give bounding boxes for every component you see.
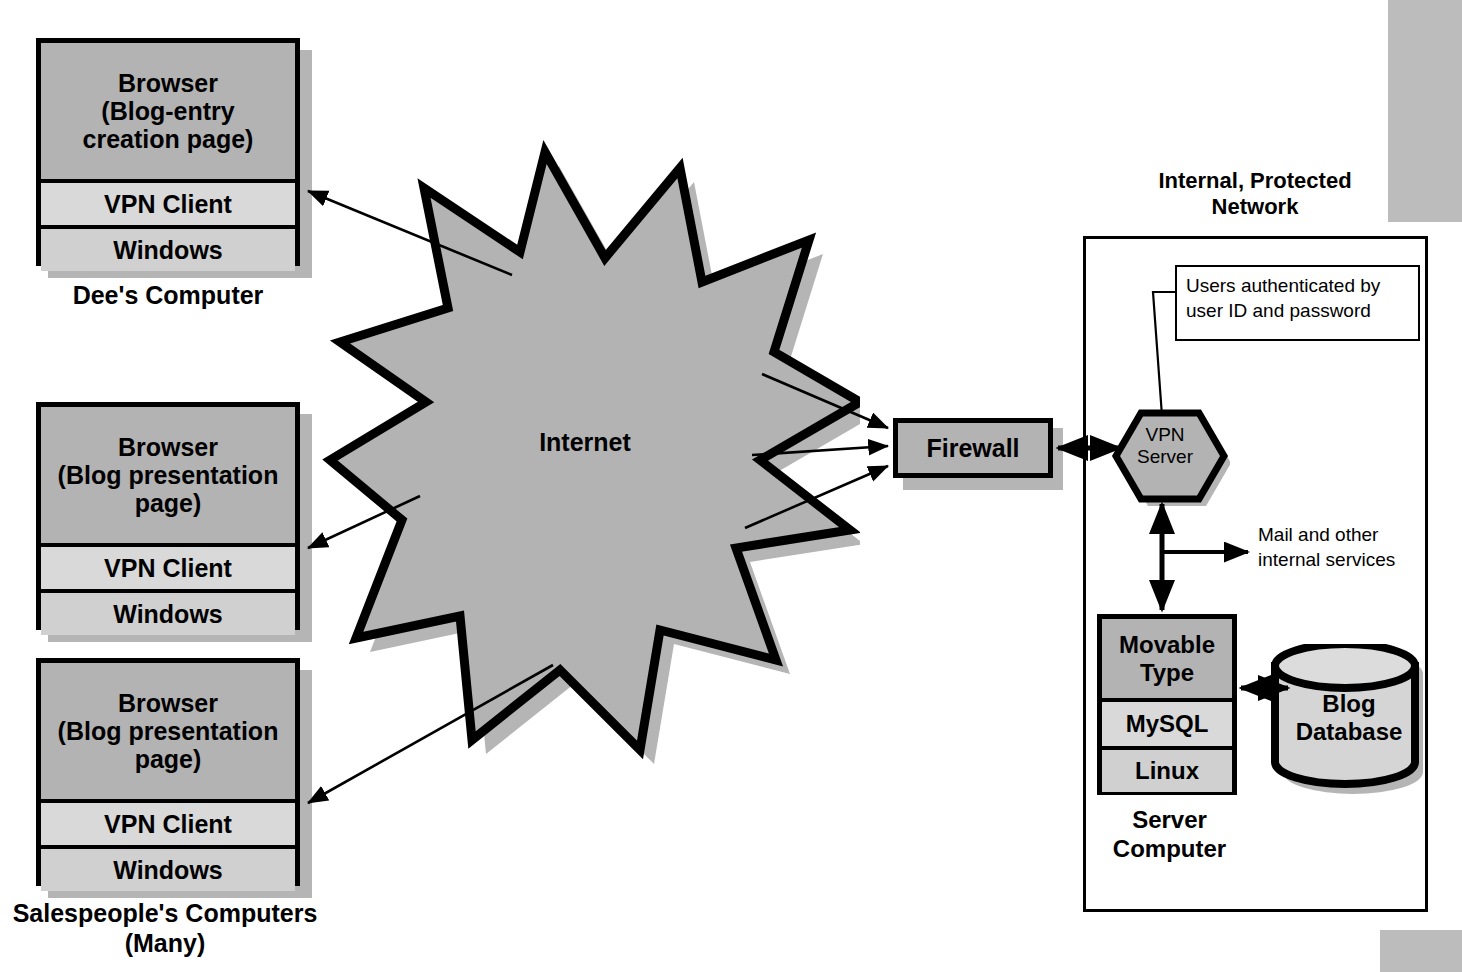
firewall-box: Firewall (893, 418, 1053, 478)
page-edge-band-bottom (1380, 930, 1462, 972)
salesperson-1-os-row: Windows (41, 593, 295, 635)
salesperson-2-stack: Browser(Blog presentationpage) VPN Clien… (36, 658, 300, 886)
internet-label: Internet (455, 428, 715, 457)
salesperson-1-browser-row: Browser(Blog presentationpage) (41, 407, 295, 547)
salesperson-1-stack: Browser(Blog presentationpage) VPN Clien… (36, 402, 300, 630)
salesperson-2-vpn-client-row: VPN Client (41, 803, 295, 849)
diagram-canvas: Internet Browser(Blog-entrycreation page… (0, 0, 1462, 972)
server-linux-row: Linux (1102, 750, 1232, 792)
server-computer-caption: ServerComputer (1097, 806, 1242, 864)
salesperson-1-vpn-client-row: VPN Client (41, 547, 295, 593)
salesperson-2-browser-row: Browser(Blog presentationpage) (41, 663, 295, 803)
salesperson-2-os-row: Windows (41, 849, 295, 891)
dees-browser-row: Browser(Blog-entrycreation page) (41, 43, 295, 183)
blog-database-cylinder (1270, 644, 1430, 796)
vpn-server-shape (1110, 406, 1230, 506)
server-mysql-row: MySQL (1102, 702, 1232, 750)
dees-vpn-client-row: VPN Client (41, 183, 295, 229)
dees-computer-caption: Dee's Computer (36, 280, 300, 310)
dees-os-row: Windows (41, 229, 295, 271)
salespeople-caption: Salespeople's Computers(Many) (0, 898, 330, 958)
internal-network-title: Internal, ProtectedNetwork (1095, 168, 1415, 221)
server-computer-stack: MovableType MySQL Linux (1097, 614, 1237, 795)
mail-services-label: Mail and otherinternal services (1258, 523, 1433, 572)
dees-computer-stack: Browser(Blog-entrycreation page) VPN Cli… (36, 38, 300, 266)
authentication-callout: Users authenticated by user ID and passw… (1175, 265, 1420, 341)
server-movable-type-row: MovableType (1102, 619, 1232, 702)
